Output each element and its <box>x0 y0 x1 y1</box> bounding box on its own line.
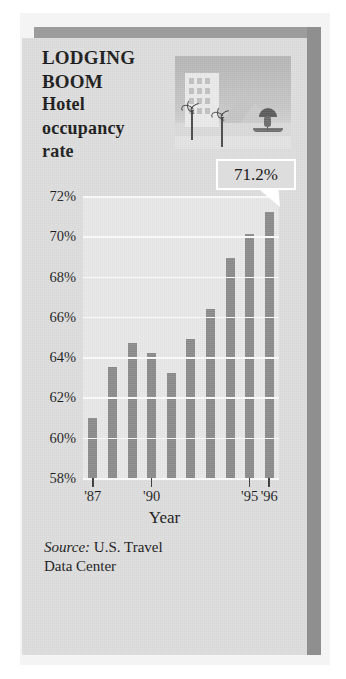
subtitle-line-1: Hotel <box>42 93 187 117</box>
chart-bar <box>147 353 156 478</box>
gridline <box>83 317 279 319</box>
chart-bar <box>128 343 137 478</box>
x-axis-ticks <box>83 478 279 488</box>
y-axis-tick-label: 70% <box>49 228 76 245</box>
bar-series <box>83 196 279 478</box>
source-text: U.S. Travel <box>90 539 163 555</box>
y-axis-tick-label: 68% <box>49 268 76 285</box>
subtitle-line-2: occupancy <box>42 117 187 141</box>
source-note: Source: U.S. Travel Data Center <box>44 538 284 576</box>
y-axis-tick-label: 72% <box>49 188 76 205</box>
x-axis-tick-label: '87 <box>84 488 101 505</box>
chart-bar <box>186 339 195 478</box>
gridline <box>83 277 279 279</box>
chart-plot-area <box>83 196 279 478</box>
infographic-card-root: LODGING BOOM Hotel occupancy rate <box>0 0 346 679</box>
subtitle-line-3: rate <box>42 140 187 164</box>
headline-line-1: LODGING <box>42 46 187 70</box>
beach-resort-illustration <box>175 56 291 149</box>
y-axis-labels: 58%60%62%64%66%68%70%72% <box>22 196 80 478</box>
chart-bar <box>108 367 117 478</box>
x-axis-tick <box>268 478 270 487</box>
x-axis-tick <box>249 478 251 487</box>
y-axis-tick-label: 64% <box>49 349 76 366</box>
chart-bar <box>88 418 97 478</box>
chart-bar <box>245 234 254 478</box>
y-axis-tick-label: 66% <box>49 308 76 325</box>
callout-value-label: 71.2% <box>234 165 278 185</box>
chart-bar <box>226 258 235 478</box>
x-axis-labels: '87'90'95'96 <box>83 488 279 508</box>
x-axis-tick <box>92 478 94 487</box>
gridline <box>83 397 279 399</box>
x-axis-tick-label: '90 <box>143 488 160 505</box>
card-right-shadow <box>307 27 321 655</box>
x-axis-tick <box>151 478 153 487</box>
source-line-2: Data Center <box>44 558 116 574</box>
gridline <box>83 357 279 359</box>
chart-bar <box>167 373 176 478</box>
y-axis-tick-label: 58% <box>49 470 76 487</box>
gridline <box>83 236 279 238</box>
x-axis-tick-label: '96 <box>261 488 278 505</box>
source-prefix: Source: <box>44 539 90 555</box>
callout-value-box: 71.2% <box>216 159 296 190</box>
x-axis-title: Year <box>22 508 307 528</box>
page-title: LODGING BOOM Hotel occupancy rate <box>42 46 187 164</box>
headline-line-2: BOOM <box>42 70 187 94</box>
chart-bar <box>206 309 215 478</box>
gridline <box>83 196 279 198</box>
infographic-card: LODGING BOOM Hotel occupancy rate <box>22 38 307 655</box>
beach-umbrella-icon <box>259 108 279 132</box>
x-axis-tick-label: '95 <box>241 488 258 505</box>
y-axis-tick-label: 62% <box>49 389 76 406</box>
gridline <box>83 438 279 440</box>
y-axis-tick-label: 60% <box>49 429 76 446</box>
